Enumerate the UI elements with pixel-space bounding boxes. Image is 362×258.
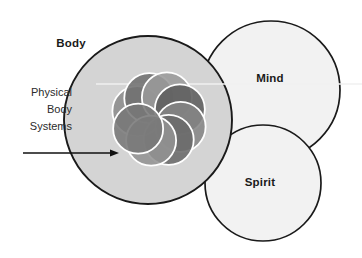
callout-line-2: Body xyxy=(47,103,73,115)
venn-diagram-container: Body Mind Spirit Physical Body Systems xyxy=(0,0,362,258)
mind-label: Mind xyxy=(256,72,284,84)
callout-line-1: Physical xyxy=(31,86,72,98)
physical-body-systems-cluster[interactable] xyxy=(112,72,205,165)
system-circle[interactable] xyxy=(113,104,163,154)
venn-diagram-svg: Body Mind Spirit Physical Body Systems xyxy=(0,0,362,258)
callout-line-3: Systems xyxy=(30,120,73,132)
spirit-label: Spirit xyxy=(245,176,276,188)
body-label: Body xyxy=(56,37,86,49)
